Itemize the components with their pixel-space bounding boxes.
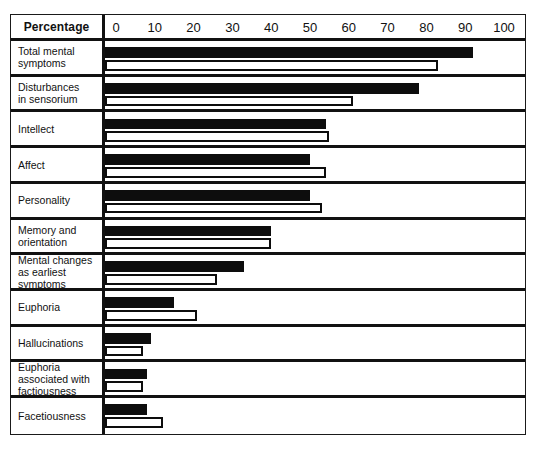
- row-label-line: Disturbances: [18, 81, 102, 93]
- row-label-line: symptoms: [18, 278, 102, 290]
- chart-row: Facetiousness: [11, 398, 525, 434]
- row-label-euphoria-associated-with-factiousness: Euphoriaassociated withfactiousness: [11, 362, 105, 395]
- bar-solid: [105, 190, 310, 201]
- row-label-total-mental-symptoms: Total mentalsymptoms: [11, 41, 105, 74]
- bar-solid: [105, 119, 326, 130]
- bar-solid: [105, 226, 271, 237]
- bar-solid: [105, 404, 147, 415]
- bar-solid: [105, 83, 419, 94]
- bar-solid: [105, 333, 151, 344]
- row-label-line: Euphoria: [18, 301, 102, 313]
- bar-solid: [105, 261, 244, 272]
- row-label-line: symptoms: [18, 57, 102, 69]
- row-label-personality: Personality: [11, 184, 105, 217]
- x-axis-tick-30: 30: [225, 15, 239, 41]
- row-label-line: orientation: [18, 236, 102, 248]
- chart-row: Euphoriaassociated withfactiousness: [11, 362, 525, 398]
- chart-row: Mental changesas earliestsymptoms: [11, 255, 525, 291]
- row-bars: [105, 362, 525, 395]
- row-label-line: as earliest: [18, 266, 102, 278]
- row-label-line: Hallucinations: [18, 337, 102, 349]
- row-label-line: in sensorium: [18, 93, 102, 105]
- row-label-line: Memory and: [18, 224, 102, 236]
- bar-solid: [105, 297, 174, 308]
- row-label-mental-changes-as-earliest-symptoms: Mental changesas earliestsymptoms: [11, 255, 105, 288]
- row-bars: [105, 291, 525, 324]
- x-axis-tick-0: 0: [112, 15, 119, 41]
- x-axis-tick-40: 40: [264, 15, 278, 41]
- row-label-line: Facetiousness: [18, 410, 102, 422]
- chart-row: Affect: [11, 148, 525, 184]
- x-axis-ticks: 0102030405060708090100: [105, 15, 525, 38]
- bar-hollow: [105, 381, 143, 392]
- chart-row: Total mentalsymptoms: [11, 41, 525, 77]
- chart-row: Memory andorientation: [11, 220, 525, 256]
- row-bars: [105, 41, 525, 74]
- row-bars: [105, 220, 525, 253]
- chart-row: Personality: [11, 184, 525, 220]
- row-bars: [105, 77, 525, 110]
- row-label-disturbances-in-sensorium: Disturbancesin sensorium: [11, 77, 105, 110]
- chart-row: Hallucinations: [11, 327, 525, 363]
- row-bars: [105, 184, 525, 217]
- chart-row: Euphoria: [11, 291, 525, 327]
- chart-header-row: Percentage 0102030405060708090100: [11, 15, 525, 41]
- chart-row: Intellect: [11, 112, 525, 148]
- bar-hollow: [105, 167, 326, 178]
- row-label-memory-and-orientation: Memory andorientation: [11, 220, 105, 253]
- row-label-line: Affect: [18, 159, 102, 171]
- chart-container: Percentage 0102030405060708090100 Total …: [10, 14, 526, 435]
- row-bars: [105, 112, 525, 145]
- row-label-line: Total mental: [18, 45, 102, 57]
- bar-hollow: [105, 60, 438, 71]
- row-label-affect: Affect: [11, 148, 105, 181]
- x-axis-tick-70: 70: [380, 15, 394, 41]
- bar-hollow: [105, 131, 329, 142]
- row-label-euphoria: Euphoria: [11, 291, 105, 324]
- row-bars: [105, 255, 525, 288]
- bar-hollow: [105, 274, 217, 285]
- x-axis-tick-20: 20: [186, 15, 200, 41]
- x-axis-tick-60: 60: [342, 15, 356, 41]
- row-label-intellect: Intellect: [11, 112, 105, 145]
- bar-hollow: [105, 417, 163, 428]
- bar-solid: [105, 47, 473, 58]
- bar-hollow: [105, 346, 143, 357]
- bar-hollow: [105, 310, 197, 321]
- x-axis-tick-90: 90: [458, 15, 472, 41]
- percentage-header-label: Percentage: [24, 20, 90, 34]
- row-label-hallucinations: Hallucinations: [11, 327, 105, 360]
- row-bars: [105, 148, 525, 181]
- row-bars: [105, 398, 525, 434]
- percentage-header-cell: Percentage: [11, 15, 105, 38]
- bar-hollow: [105, 238, 271, 249]
- row-label-line: factiousness: [18, 385, 102, 397]
- row-label-line: associated with: [18, 373, 102, 385]
- row-label-facetiousness: Facetiousness: [11, 398, 105, 434]
- x-axis-tick-10: 10: [148, 15, 162, 41]
- chart-rows: Total mentalsymptomsDisturbancesin senso…: [11, 41, 525, 434]
- bar-hollow: [105, 96, 353, 107]
- bar-solid: [105, 369, 147, 380]
- row-label-line: Euphoria: [18, 361, 102, 373]
- row-bars: [105, 327, 525, 360]
- bar-hollow: [105, 203, 322, 214]
- x-axis-tick-50: 50: [303, 15, 317, 41]
- row-label-line: Intellect: [18, 123, 102, 135]
- row-label-line: Mental changes: [18, 254, 102, 266]
- x-axis-tick-100: 100: [493, 15, 515, 41]
- chart-row: Disturbancesin sensorium: [11, 77, 525, 113]
- bar-solid: [105, 154, 310, 165]
- row-label-line: Personality: [18, 194, 102, 206]
- x-axis-tick-80: 80: [419, 15, 433, 41]
